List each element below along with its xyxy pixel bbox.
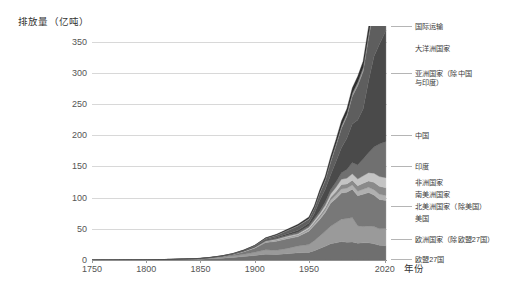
y-tick-label-300: 300 — [72, 68, 87, 78]
legend-label[interactable]: 欧盟27国 — [415, 255, 445, 264]
y-tick-label-150: 150 — [72, 161, 87, 171]
chart-figure: 排放量（亿吨） 年份 050100150200250300350 1750180… — [0, 0, 520, 297]
y-tick-label-100: 100 — [72, 193, 87, 203]
legend-label[interactable]: 美国 — [415, 214, 429, 223]
stacked-area-series — [92, 26, 387, 260]
legend-leader-line — [391, 206, 412, 207]
y-axis-title: 排放量（亿吨） — [18, 14, 89, 28]
y-tick-label-50: 50 — [77, 224, 87, 234]
x-tick-mark-1900 — [255, 260, 256, 263]
x-tick-label-1900: 1900 — [245, 264, 265, 274]
x-tick-label-1950: 1950 — [299, 264, 319, 274]
x-tick-mark-1750 — [92, 260, 93, 263]
legend-leader-line — [391, 135, 412, 136]
legend-label[interactable]: 北美洲国家（除美国） — [415, 202, 486, 211]
legend-leader-line — [391, 259, 412, 260]
legend-label[interactable]: 欧洲国家（除欧盟27国） — [415, 235, 494, 244]
y-tick-label-350: 350 — [72, 37, 87, 47]
plot-area: 050100150200250300350 175018001850190019… — [92, 26, 387, 260]
legend-label[interactable]: 亚洲国家（除中国 与印度） — [415, 69, 472, 87]
x-tick-mark-1850 — [200, 260, 201, 263]
x-tick-mark-1950 — [309, 260, 310, 263]
x-tick-label-1750: 1750 — [82, 264, 102, 274]
x-axis-line — [92, 260, 387, 261]
x-tick-mark-1800 — [146, 260, 147, 263]
x-tick-label-1850: 1850 — [190, 264, 210, 274]
legend-label[interactable]: 中国 — [415, 131, 429, 140]
legend-leader-line — [391, 239, 412, 240]
legend-label[interactable]: 国际运输 — [415, 22, 443, 31]
x-tick-label-1800: 1800 — [136, 264, 156, 274]
x-tick-mark-2020 — [385, 260, 386, 263]
legend-label[interactable]: 印度 — [415, 162, 429, 171]
area-series — [92, 242, 386, 260]
legend-label[interactable]: 南美洲国家 — [415, 190, 451, 199]
legend-leader-line — [391, 166, 412, 167]
legend: 国际运输大洋洲国家亚洲国家（除中国 与印度）中国印度非洲国家南美洲国家北美洲国家… — [389, 0, 520, 297]
legend-leader-line — [391, 73, 412, 74]
y-tick-label-200: 200 — [72, 130, 87, 140]
plot-inner: 050100150200250300350 175018001850190019… — [92, 26, 387, 260]
y-tick-label-250: 250 — [72, 99, 87, 109]
legend-leader-line — [391, 26, 412, 27]
legend-label[interactable]: 非洲国家 — [415, 178, 443, 187]
legend-label[interactable]: 大洋洲国家 — [415, 44, 451, 53]
